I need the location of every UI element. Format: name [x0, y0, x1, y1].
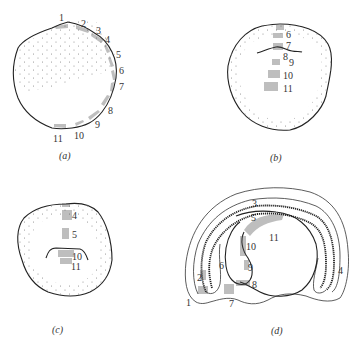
label-d-4: 4: [338, 265, 343, 276]
label-a-6: 6: [119, 65, 124, 76]
label-c-5: 5: [72, 229, 77, 240]
germ-layer-inner: [209, 213, 326, 288]
fold-right: [313, 258, 326, 293]
label-a-9: 9: [95, 119, 100, 130]
caption-c: (c): [52, 324, 64, 336]
label-d-11: 11: [269, 232, 279, 243]
label-a-8: 8: [108, 105, 113, 116]
label-a-11: 11: [53, 133, 63, 144]
label-b-7: 7: [286, 40, 291, 51]
panel-c: 4 5 10 11 (c): [18, 203, 112, 336]
hatch-8: [236, 280, 250, 286]
label-d-8: 8: [252, 279, 257, 290]
label-a-5: 5: [116, 49, 121, 60]
label-d-5: 5: [251, 212, 256, 223]
hatch-1: [198, 286, 208, 294]
label-d-3: 3: [252, 198, 257, 209]
label-a-3: 3: [96, 25, 101, 36]
panel-d: 3 5 11 10 6 9 8 2 1 7 4 (d): [185, 188, 348, 337]
label-c-4: 4: [72, 210, 77, 221]
hatch-7: [224, 284, 234, 294]
label-d-10: 10: [246, 241, 256, 252]
caption-b: (b): [270, 152, 282, 164]
label-b-9: 9: [289, 57, 294, 68]
panel-b: 6 7 8 9 10 11 (b): [228, 24, 332, 164]
label-d-2: 2: [197, 272, 202, 283]
label-c-11: 11: [71, 261, 81, 272]
label-d-6: 6: [219, 260, 224, 271]
label-a-4: 4: [105, 34, 110, 45]
label-a-7: 7: [119, 81, 124, 92]
label-a-1: 1: [59, 12, 64, 23]
inner-envelope: [194, 198, 341, 294]
panel-a: 1 2 3 4 5 6 7 8 9 10 11 (a): [14, 12, 125, 162]
figure-canvas: 1 2 3 4 5 6 7 8 9 10 11 (a) 6 7 8 9 10 1…: [0, 0, 358, 346]
label-a-10: 10: [74, 130, 84, 141]
label-b-8: 8: [283, 51, 288, 62]
label-a-2: 2: [81, 18, 86, 29]
label-d-1: 1: [186, 297, 191, 308]
caption-a: (a): [59, 150, 71, 162]
label-b-10: 10: [283, 70, 293, 81]
label-b-11: 11: [283, 83, 293, 94]
caption-d: (d): [271, 325, 283, 337]
label-b-6: 6: [286, 29, 291, 40]
label-d-7: 7: [229, 298, 234, 309]
label-d-9: 9: [248, 262, 253, 273]
